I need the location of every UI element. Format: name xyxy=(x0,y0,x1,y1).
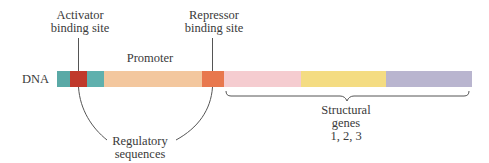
diagram-lines xyxy=(0,0,489,163)
structural-genes-brace xyxy=(226,91,469,101)
regulatory-arc-left xyxy=(79,87,108,140)
regulatory-arc-right xyxy=(176,87,213,140)
